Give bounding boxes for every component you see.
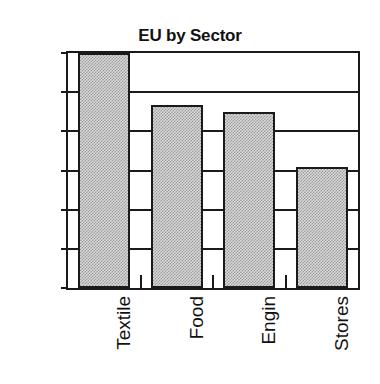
x-axis-category-label-food: Food — [187, 296, 206, 339]
x-axis-tick-mark — [285, 275, 287, 288]
x-axis-tick-mark — [140, 275, 142, 288]
y-axis-tick-mark — [61, 248, 68, 250]
bar-textile — [78, 53, 130, 288]
x-axis-category-label-textile: Textile — [114, 296, 133, 350]
y-axis-tick-mark — [61, 52, 68, 54]
bar-food — [151, 105, 203, 288]
x-axis-tick-mark — [212, 275, 214, 288]
y-axis-tick-mark — [61, 91, 68, 93]
x-axis-category-label-stores: Stores — [332, 296, 351, 351]
bar-chart-figure: EU by Sector 1.51.31.00.80.50.30.0 Texti… — [0, 0, 380, 384]
x-axis-category-label-engin: Engin — [259, 296, 278, 345]
bar-engin — [223, 112, 275, 288]
y-axis-tick-mark — [61, 170, 68, 172]
y-axis-tick-mark — [61, 130, 68, 132]
bar-stores — [296, 167, 348, 288]
y-axis-tick-mark — [61, 287, 68, 289]
chart-title: EU by Sector — [0, 26, 380, 46]
y-axis-tick-mark — [61, 209, 68, 211]
plot-area: 1.51.31.00.80.50.30.0 — [66, 51, 360, 290]
plot-inner-surface: 1.51.31.00.80.50.30.0 — [68, 53, 358, 288]
